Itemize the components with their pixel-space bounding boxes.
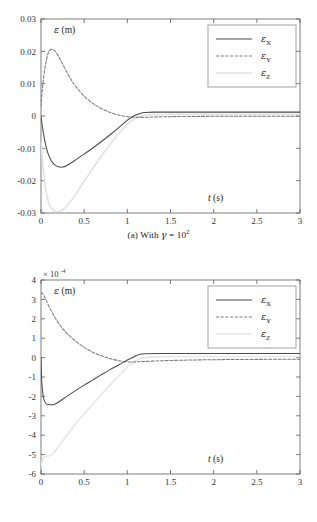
chart-svg-a: 00.511.522.530.030.020.010-0.01-0.02-0.0… [0, 0, 317, 240]
x-axis-label: t (s) [208, 454, 223, 465]
plot-area-a: 00.511.522.530.030.020.010-0.01-0.02-0.0… [0, 0, 317, 240]
x-tick-label: 1.5 [165, 477, 177, 487]
svg-text:-4: -4 [61, 268, 66, 274]
panel-caption-a: (a) With γ = 102 [0, 228, 317, 240]
x-tick-label: 3 [298, 216, 303, 226]
y-tick-label: -1 [29, 372, 37, 382]
y-tick-label: 4 [32, 275, 37, 285]
x-tick-label: 3 [298, 477, 303, 487]
y-axis-label: ε (m) [54, 24, 75, 36]
y-tick-label: -0.01 [17, 144, 36, 154]
y-tick-label: 0 [32, 111, 37, 121]
svg-text:ε (m): ε (m) [54, 24, 75, 36]
y-tick-label: -0.03 [17, 208, 36, 218]
svg-text:ε (m): ε (m) [54, 285, 75, 297]
x-tick-label: 1.5 [165, 216, 177, 226]
x-tick-label: 2.5 [251, 216, 263, 226]
chart-legend: εXεYεZ [208, 25, 296, 87]
x-tick-label: 0.5 [79, 477, 91, 487]
chart-panel-a: 00.511.522.530.030.020.010-0.01-0.02-0.0… [0, 0, 317, 261]
y-tick-label: -3 [29, 411, 37, 421]
series-line-epsilon_X [41, 112, 300, 167]
y-tick-label: 0 [32, 353, 37, 363]
chart-panel-b: 00.511.522.5343210-1-2-3-4-5-6× 10-4ε (m… [0, 261, 317, 522]
chart-legend: εXεYεZ [208, 286, 296, 348]
x-tick-label: 1 [125, 477, 130, 487]
figure-container: 00.511.522.530.030.020.010-0.01-0.02-0.0… [0, 0, 317, 522]
chart-svg-b: 00.511.522.5343210-1-2-3-4-5-6× 10-4ε (m… [0, 261, 317, 501]
y-tick-label: -4 [29, 430, 37, 440]
y-tick-label: -5 [29, 450, 37, 460]
x-tick-label: 1 [125, 216, 130, 226]
svg-text:t (s): t (s) [208, 454, 223, 465]
x-tick-label: 0 [39, 216, 44, 226]
x-tick-label: 2 [211, 216, 216, 226]
plot-area-b: 00.511.522.5343210-1-2-3-4-5-6× 10-4ε (m… [0, 261, 317, 501]
svg-text:t (s): t (s) [208, 193, 223, 204]
caption-equals-base: = 10 [167, 230, 186, 240]
x-tick-label: 0.5 [79, 216, 91, 226]
y-tick-label: 0.02 [20, 47, 36, 57]
x-axis-label: t (s) [208, 193, 223, 204]
y-tick-label: 2 [32, 314, 37, 324]
x-tick-label: 0 [39, 477, 44, 487]
series-line-epsilon_Z [41, 114, 300, 211]
y-tick-label: 1 [32, 333, 37, 343]
y-tick-label: 3 [32, 295, 37, 305]
x-tick-label: 2 [211, 477, 216, 487]
y-tick-label: 0.03 [20, 14, 36, 24]
y-tick-label: -6 [29, 469, 37, 479]
y-tick-label: 0.01 [20, 79, 36, 89]
caption-exponent: 2 [186, 228, 189, 235]
series-line-epsilon_Z [41, 356, 300, 466]
y-axis-exponent-label: × 10-4 [43, 268, 66, 280]
y-tick-label: -0.02 [17, 176, 36, 186]
svg-text:× 10: × 10 [43, 269, 58, 279]
y-axis-label: ε (m) [54, 285, 75, 297]
caption-prefix: (a) With [128, 230, 162, 240]
x-tick-label: 2.5 [251, 477, 263, 487]
y-tick-label: -2 [29, 392, 37, 402]
series-line-epsilon_X [41, 354, 300, 405]
